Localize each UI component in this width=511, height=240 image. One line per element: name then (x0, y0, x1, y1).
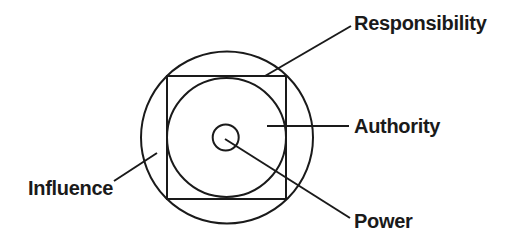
authority-inner-circle (167, 78, 286, 197)
authority-label: Authority (354, 115, 441, 137)
power-label: Power (354, 210, 413, 232)
power-leader-line (225, 139, 350, 218)
responsibility-label: Responsibility (354, 12, 488, 34)
power-center-circle (213, 125, 239, 151)
responsibility-leader-line (265, 26, 351, 76)
concept-diagram: Responsibility Authority Power Influence (0, 0, 511, 240)
influence-label: Influence (28, 177, 113, 199)
